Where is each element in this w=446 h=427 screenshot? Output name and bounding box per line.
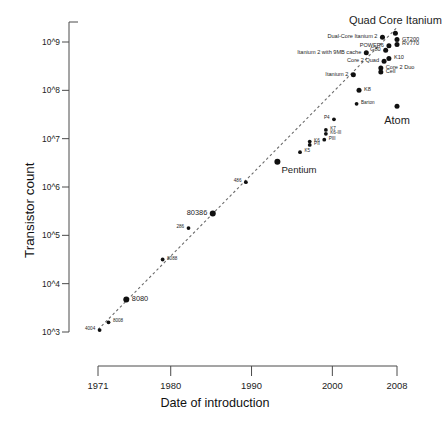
- data-point: [383, 48, 388, 53]
- data-point-label: Core 2 Duo: [386, 65, 415, 71]
- x-tick-label: 1990: [222, 380, 282, 391]
- y-axis-title: Transistor count: [22, 162, 37, 258]
- data-point-label: K5: [304, 149, 310, 154]
- data-point: [324, 128, 328, 132]
- data-point: [378, 66, 383, 71]
- data-point-label: RV770: [402, 41, 419, 47]
- data-point-label: Itanium 2: [325, 72, 348, 78]
- data-point-label: 8088: [167, 257, 177, 262]
- data-point: [210, 211, 216, 217]
- data-point-label: 8080: [132, 295, 148, 302]
- data-point: [308, 143, 312, 147]
- data-point-label: PII: [314, 142, 320, 147]
- data-point: [298, 150, 302, 154]
- data-point: [324, 132, 328, 136]
- data-point-label: 8008: [113, 319, 123, 324]
- data-point: [351, 72, 356, 77]
- data-point: [364, 50, 369, 55]
- x-tick-label: 1971: [68, 380, 128, 391]
- data-point-label: 4004: [85, 327, 95, 332]
- data-point: [107, 320, 111, 324]
- data-point: [98, 328, 102, 332]
- y-tick-label: 10^6: [42, 182, 60, 192]
- data-point-label: Core 2 Quad: [347, 58, 379, 64]
- data-point: [355, 102, 359, 106]
- y-tick-label: 10^4: [42, 279, 60, 289]
- data-point-label: GT200: [402, 37, 419, 43]
- y-axis: [62, 22, 78, 332]
- data-point: [380, 35, 385, 40]
- data-point-label: P4: [324, 116, 330, 121]
- data-point-label: POWER6: [360, 43, 384, 49]
- data-point-label: K10: [394, 55, 404, 61]
- y-tick-label: 10^9: [42, 37, 60, 47]
- data-point-label: Itanium 2 with 9MB cache: [297, 50, 361, 56]
- data-point: [395, 42, 400, 47]
- data-point-label: Atom: [357, 115, 437, 126]
- data-point-label: 486: [234, 179, 242, 184]
- data-point: [357, 88, 362, 93]
- data-point-label: PIII: [329, 137, 336, 142]
- x-tick-label: 2008: [367, 380, 427, 391]
- y-tick-label: 10^3: [42, 327, 60, 337]
- data-point: [395, 104, 400, 109]
- data-point: [308, 140, 312, 144]
- data-point-label: Pentium: [281, 165, 316, 175]
- data-point-label: Barton: [361, 101, 375, 106]
- data-point-label: K8: [364, 87, 371, 93]
- data-point-label: Dual-Core Itanium 2: [327, 34, 377, 40]
- x-axis-title: Date of introduction: [0, 396, 430, 410]
- x-tick-label: 2000: [302, 380, 362, 391]
- y-tick-label: 10^5: [42, 230, 60, 240]
- data-point-label: Quad Core Itanium: [335, 15, 446, 26]
- data-point: [274, 159, 280, 165]
- data-point-label: K6-III: [330, 131, 341, 136]
- data-point: [123, 297, 129, 303]
- data-point-label: 286: [176, 225, 184, 230]
- data-point: [332, 117, 336, 121]
- data-point: [382, 59, 387, 64]
- y-tick-label: 10^7: [42, 134, 60, 144]
- data-point: [161, 258, 165, 262]
- data-point: [244, 180, 248, 184]
- x-axis: [98, 366, 397, 376]
- data-point-group: [98, 31, 400, 332]
- x-tick-label: 1980: [141, 380, 201, 391]
- y-tick-label: 10^8: [42, 85, 60, 95]
- data-point: [322, 138, 326, 142]
- data-point: [386, 56, 391, 61]
- data-point: [393, 31, 398, 36]
- data-point-label: 80386: [187, 209, 208, 216]
- data-point: [395, 37, 400, 42]
- data-point: [187, 226, 191, 230]
- data-point: [386, 43, 391, 48]
